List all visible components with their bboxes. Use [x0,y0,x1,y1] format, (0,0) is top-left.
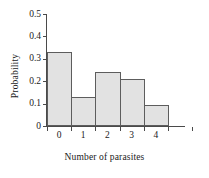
plot-area [46,14,176,126]
x-tick-label: 4 [144,130,168,141]
y-tick-label: 0.4 [17,32,41,41]
bar [120,79,145,126]
bar [47,52,72,126]
y-tick-label: 0.2 [17,77,41,86]
y-tick-label: 0 [17,122,41,131]
y-tick-label: 0.3 [17,54,41,63]
x-tick-mark [192,127,193,131]
y-tick-label: 0.5 [17,10,41,19]
x-tick-label: 0 [47,130,71,141]
x-tick-label: 1 [71,130,95,141]
x-axis-tick-labels: 01234 [46,130,186,144]
histogram-chart: Probability 00.10.20.30.40.5 01234 Numbe… [0,0,209,178]
bar [144,105,169,126]
bar [71,97,96,126]
x-axis-label: Number of parasites [0,152,209,162]
x-axis-spine [46,126,185,127]
x-tick-label: 3 [120,130,144,141]
x-tick-label: 2 [95,130,119,141]
y-tick-label: 0.1 [17,99,41,108]
bar-series [47,14,176,126]
bar [95,72,120,126]
